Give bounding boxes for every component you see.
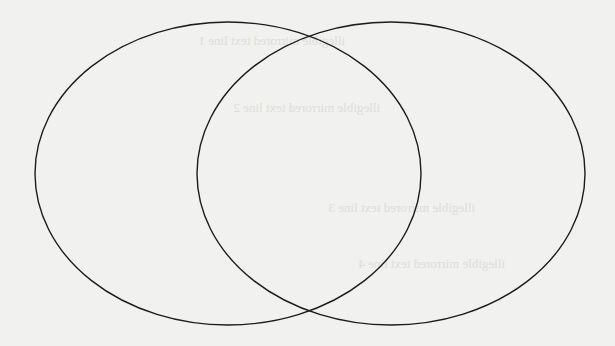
ghost-text-line: illegible mirrored text line 4	[358, 256, 505, 271]
venn-circle-left	[35, 22, 421, 325]
ghost-text-line: illegible mirrored text line 2	[233, 100, 380, 115]
show-through-text: illegible mirrored text line 1 illegible…	[198, 33, 505, 271]
venn-circle-right	[197, 22, 585, 325]
venn-diagram: illegible mirrored text line 1 illegible…	[0, 0, 615, 346]
venn-diagram-canvas: illegible mirrored text line 1 illegible…	[0, 0, 615, 346]
ghost-text-line: illegible mirrored text line 1	[198, 33, 345, 48]
ghost-text-line: illegible mirrored text line 3	[328, 200, 475, 215]
